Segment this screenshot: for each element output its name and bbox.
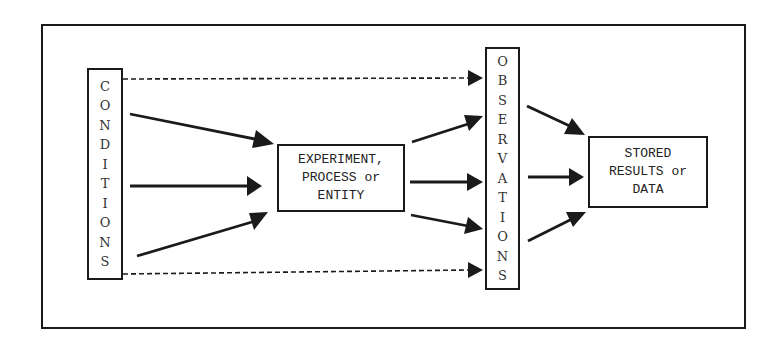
letter: S	[498, 91, 507, 111]
letter: A	[498, 169, 507, 189]
letter: I	[500, 208, 505, 228]
letter: S	[101, 252, 110, 272]
stored-line-1: STORED	[625, 145, 672, 163]
letter: R	[498, 130, 508, 150]
letter: E	[498, 110, 508, 130]
letter: O	[100, 96, 111, 116]
dashed-arrow-top	[123, 78, 470, 79]
arrowhead-icon	[468, 70, 483, 86]
letter: S	[498, 266, 507, 286]
conditions-box: C O N D I T I O N S	[87, 68, 123, 280]
letter: N	[99, 116, 110, 136]
dashed-arrow-bottom	[123, 270, 470, 274]
letter: C	[100, 77, 110, 97]
experiment-line-1: EXPERIMENT,	[298, 151, 384, 169]
arrowhead-icon	[468, 262, 483, 278]
stored-line-3: DATA	[632, 181, 663, 199]
letter: O	[497, 227, 508, 247]
letter: O	[100, 213, 111, 233]
experiment-box: EXPERIMENT, PROCESS or ENTITY	[277, 144, 405, 212]
letter: O	[497, 52, 508, 72]
letter: N	[497, 247, 508, 267]
letter: B	[498, 71, 508, 91]
letter: I	[102, 155, 107, 175]
letter: V	[498, 149, 507, 169]
letter: D	[100, 135, 110, 155]
letter: I	[102, 194, 107, 214]
letter: T	[498, 188, 507, 208]
stored-results-box: STORED RESULTS or DATA	[588, 136, 708, 208]
letter: T	[101, 174, 110, 194]
experiment-line-3: ENTITY	[318, 187, 365, 205]
observations-box: O B S E R V A T I O N S	[485, 47, 520, 290]
experiment-line-2: PROCESS or	[302, 169, 380, 187]
letter: N	[99, 233, 110, 253]
stored-line-2: RESULTS or	[609, 163, 687, 181]
